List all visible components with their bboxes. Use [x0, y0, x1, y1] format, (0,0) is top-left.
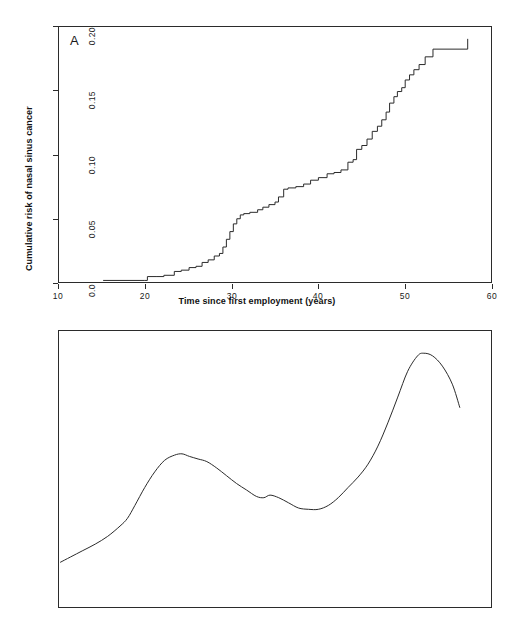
y-axis-title-a: Cumulative risk of nasal sinus cancer: [24, 106, 34, 271]
panel-a-letter: A: [70, 33, 79, 48]
panel-a: A 0.0 0.05 0.10 0.15 0.20 10 20 30 40 50…: [0, 0, 514, 320]
ytick-label-a-1: 0.05: [87, 220, 97, 260]
xtick-mark-a-2: [232, 284, 233, 289]
xtick-mark-a-0: [58, 284, 59, 289]
ytick-mark-a-2: [53, 155, 58, 156]
x-axis-title-a: Time since first employment (years): [0, 296, 514, 306]
ytick-label-a-4: 0.20: [87, 27, 97, 67]
xtick-mark-a-5: [492, 284, 493, 289]
xtick-mark-a-4: [405, 284, 406, 289]
figure-container: A 0.0 0.05 0.10 0.15 0.20 10 20 30 40 50…: [0, 0, 514, 643]
ytick-label-a-3: 0.15: [87, 91, 97, 131]
xtick-mark-a-1: [145, 284, 146, 289]
ytick-mark-a-4: [53, 26, 58, 27]
plot-frame-b: [58, 330, 492, 608]
xtick-mark-a-3: [318, 284, 319, 289]
plot-frame-a: [58, 26, 492, 283]
ytick-label-a-2: 0.10: [87, 156, 97, 196]
ytick-mark-a-1: [53, 219, 58, 220]
ytick-mark-a-3: [53, 90, 58, 91]
panel-b: B 0 2 4 5 8 10 20 25 30 35 40 45 50 55 N…: [0, 320, 514, 643]
